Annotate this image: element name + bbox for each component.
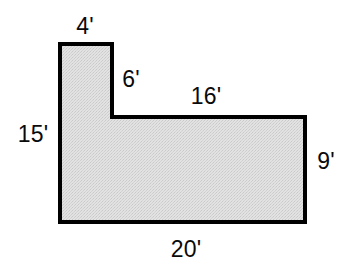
dimension-label-left-text: 15': [18, 123, 49, 146]
dimension-label-right-text: 9': [317, 150, 335, 173]
dimension-label-bottom: 20': [186, 249, 217, 272]
dimension-label-notch-vertical: 6': [131, 79, 149, 102]
dimension-label-inner-horizontal-text: 16': [191, 85, 222, 108]
dimension-label-top-text: 4': [76, 15, 94, 38]
dimension-label-right: 9': [326, 161, 344, 184]
diagram-canvas: 4' 6' 16' 15' 9' 20': [0, 0, 345, 272]
l-shape-polygon: [60, 44, 305, 222]
dimension-label-notch-vertical-text: 6': [122, 68, 140, 91]
dimension-label-top: 4': [85, 26, 103, 49]
dimension-label-inner-horizontal: 16': [206, 96, 237, 119]
dimension-label-left: 15': [33, 134, 64, 157]
dimension-label-bottom-text: 20': [171, 238, 202, 261]
